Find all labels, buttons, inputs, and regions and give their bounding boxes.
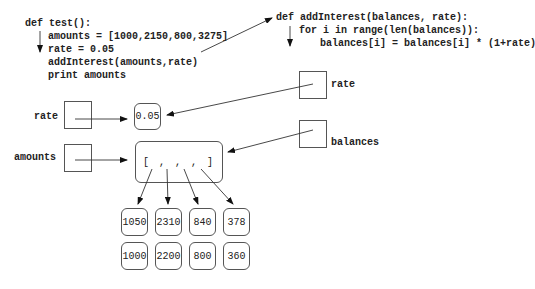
arrows-layer — [0, 0, 535, 289]
arrow-param-rate-to-value — [167, 84, 313, 115]
list-slot-arrow-2 — [184, 169, 198, 204]
call-arrow — [201, 18, 272, 52]
list-slot-arrow-0 — [138, 169, 152, 204]
arrow-balances-to-list — [228, 130, 313, 152]
list-slot-arrow-1 — [167, 169, 168, 204]
list-slot-arrow-3 — [201, 169, 233, 204]
